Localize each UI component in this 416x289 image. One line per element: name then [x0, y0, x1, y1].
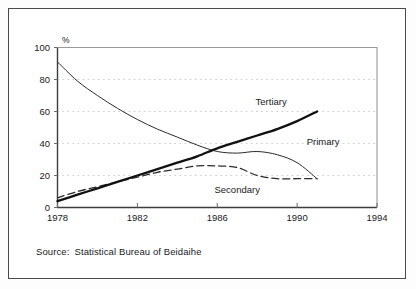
series-line-primary [58, 62, 318, 179]
y-tick-label: 20 [39, 170, 50, 181]
y-tick-label: 100 [34, 42, 50, 53]
series-line-tertiary [58, 112, 318, 202]
x-tick-label: 1990 [287, 212, 308, 223]
figure-container: 19781982198619901994020406080100% Primar… [0, 0, 416, 289]
y-tick-label: 40 [39, 138, 50, 149]
axis-tick-labels: 19781982198619901994020406080100% [34, 35, 387, 223]
series-label-primary: Primary [307, 136, 340, 147]
source-note: Source:Statistical Bureau of Beidaihe [36, 246, 202, 257]
chart-series [58, 62, 318, 201]
y-tick-label: 80 [39, 74, 50, 85]
gridlines [58, 80, 378, 176]
x-tick-label: 1986 [207, 212, 228, 223]
y-tick-label: 0 [45, 202, 50, 213]
y-axis-unit-label: % [62, 35, 70, 45]
x-tick-label: 1994 [366, 212, 387, 223]
source-value: Statistical Bureau of Beidaihe [74, 246, 201, 257]
x-tick-label: 1982 [127, 212, 148, 223]
series-line-secondary [58, 166, 318, 198]
y-tick-label: 60 [39, 106, 50, 117]
source-label: Source: [36, 246, 69, 257]
series-label-secondary: Secondary [215, 184, 261, 195]
series-label-tertiary: Tertiary [256, 96, 287, 107]
x-tick-label: 1978 [47, 212, 68, 223]
